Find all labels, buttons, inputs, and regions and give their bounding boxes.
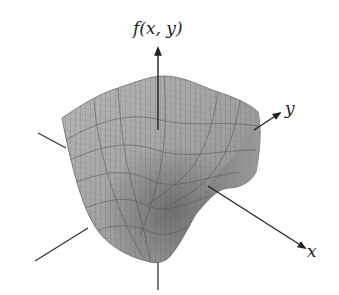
surface: [62, 76, 260, 263]
f-axis-label: f(x, y): [133, 20, 183, 37]
surface-plot: [0, 0, 339, 295]
x-axis-label: x: [307, 243, 317, 260]
y-axis-label: y: [285, 100, 295, 117]
x-axis: [208, 186, 305, 248]
